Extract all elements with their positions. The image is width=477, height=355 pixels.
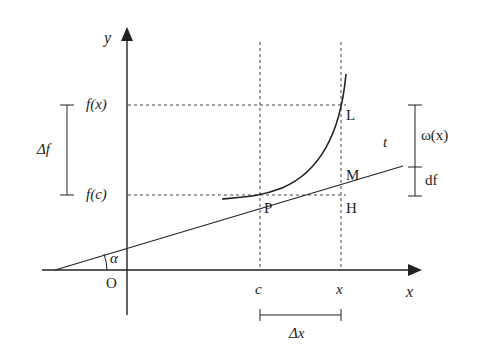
delta-f-label: Δf	[37, 142, 50, 157]
tangent-label: t	[383, 135, 387, 150]
c-label: c	[255, 282, 262, 297]
alpha-arc	[104, 254, 107, 270]
origin-label: O	[106, 276, 117, 291]
x-axis-arrow-icon	[408, 264, 422, 276]
point-m-label: M	[346, 168, 359, 183]
diagram-canvas: y x O α f(x) f(c) Δf c x Δx P L M H t ω(…	[0, 0, 477, 355]
fc-label: f(c)	[86, 187, 107, 202]
point-l-label: L	[346, 108, 355, 123]
function-curve	[222, 74, 346, 199]
delta-x-label: Δx	[289, 326, 304, 341]
y-axis-arrow-icon	[121, 27, 133, 41]
alpha-label: α	[110, 251, 118, 266]
point-h-label: H	[346, 201, 357, 216]
df-label: df	[425, 173, 438, 188]
point-p-label: P	[264, 201, 272, 216]
diagram-svg	[0, 0, 477, 355]
x-point-label: x	[336, 282, 343, 297]
fx-label: f(x)	[86, 97, 107, 112]
omega-label: ω(x)	[421, 128, 448, 143]
y-axis-label: y	[104, 30, 111, 46]
x-axis-label: x	[406, 284, 413, 300]
